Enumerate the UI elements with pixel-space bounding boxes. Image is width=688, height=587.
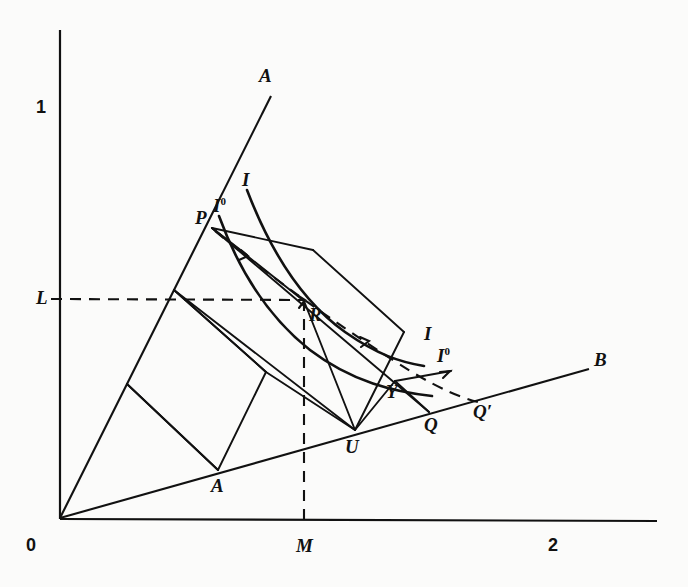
connector-diag-low: [266, 372, 355, 430]
dashed-tangent-p-to-qprime: [215, 231, 478, 402]
lattice-line-parallel-oa-5: [313, 250, 404, 332]
lattice-group: [127, 228, 429, 470]
x-axis-tick-label-2: 2: [548, 536, 558, 554]
ray-oa: [60, 96, 271, 518]
lattice-connectors: [174, 228, 355, 430]
curve-i0-top-superscript: 0: [220, 195, 226, 207]
arrowheads-group: [239, 250, 450, 378]
dashed-horizontal-l-to-r: [51, 299, 305, 300]
arrowhead-right: [440, 371, 450, 378]
y-axis-tick-label-1: 1: [36, 98, 46, 116]
lattice-line-parallel-oa-2: [218, 372, 266, 470]
point-r-label: R: [309, 305, 322, 324]
price-line-group: [212, 228, 451, 381]
diagram-svg: [0, 0, 688, 587]
connector-diag-mid: [174, 290, 266, 372]
point-l-label: L: [36, 288, 48, 307]
ray-b-label: B: [594, 350, 607, 369]
curve-i0-right-label: I0: [437, 346, 450, 365]
origin-label: 0: [26, 536, 36, 554]
lattice-line-parallel-oa-8: [395, 381, 429, 412]
curve-i0-right-superscript: 0: [444, 345, 450, 357]
point-q-label: Q: [424, 415, 438, 434]
point-q-prime-label: Q′: [473, 402, 492, 421]
point-m-label: M: [296, 536, 313, 555]
point-y-label: Y: [386, 382, 398, 401]
point-a-label: A: [211, 476, 224, 495]
x-axis-line: [60, 519, 657, 521]
indifference-curve-i0: [219, 216, 432, 396]
curve-i0-top-label: I0: [213, 196, 226, 215]
curve-i-right-label: I: [424, 324, 431, 343]
curve-i-top-label: I: [242, 170, 249, 189]
point-p-label: P: [195, 208, 207, 227]
lattice-line-parallel-oa-1: [127, 384, 218, 470]
ray-ob: [60, 369, 589, 518]
point-u-label: U: [345, 437, 359, 456]
figure-canvas: 1 0 2 A B P R Y U Q Q′ A L M I I0 I I0: [0, 0, 688, 587]
rays-group: [60, 96, 589, 518]
ray-a-label: A: [259, 66, 272, 85]
